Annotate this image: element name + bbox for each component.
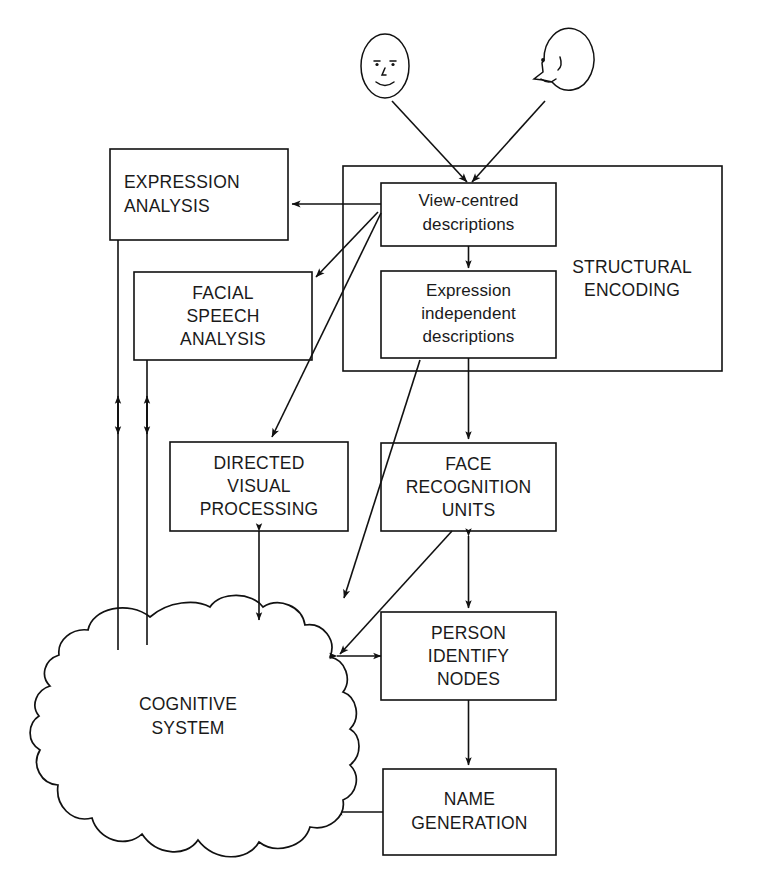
expression-analysis-label-line-2: ANALYSIS (124, 196, 210, 216)
expression-independent-label-line-3: descriptions (423, 327, 515, 346)
frontal-face-icon (361, 34, 409, 98)
face-recognition-model-diagram: STRUCTURAL ENCODING View-centred descrip… (0, 0, 758, 895)
link-view-centred-to-facial-speech (316, 212, 378, 277)
facial-speech-analysis-label-line-2: SPEECH (186, 306, 259, 326)
profile-face-icon (534, 28, 594, 90)
person-identify-nodes-label-line-1: PERSON (431, 623, 506, 643)
view-centred-descriptions-label-line-1: View-centred (418, 191, 518, 210)
face-recognition-units-label-line-2: RECOGNITION (406, 477, 532, 497)
facial-speech-analysis-label-line-1: FACIAL (192, 283, 254, 303)
face-recognition-units-label-line-3: UNITS (442, 500, 496, 520)
link-frontal-face-to-view-centred (392, 101, 467, 182)
expression-analysis-label-line-1: EXPRESSION (124, 172, 240, 192)
expression-independent-label-line-2: independent (421, 304, 516, 323)
directed-visual-processing-label-line-1: DIRECTED (213, 453, 304, 473)
person-identify-nodes-label-line-2: IDENTIFY (428, 646, 509, 666)
directed-visual-processing-label-line-2: VISUAL (227, 476, 291, 496)
facial-speech-analysis-label-line-3: ANALYSIS (180, 329, 266, 349)
cognitive-system-label-line-1: COGNITIVE (139, 694, 237, 714)
structural-encoding-label-line-2: ENCODING (584, 280, 680, 300)
name-generation-label-line-1: NAME (444, 789, 495, 809)
directed-visual-processing-label-line-3: PROCESSING (200, 499, 319, 519)
name-generation-label-line-2: GENERATION (411, 813, 527, 833)
link-profile-face-to-view-centred (472, 101, 545, 182)
face-recognition-units-label-line-1: FACE (445, 454, 492, 474)
diagram-canvas: STRUCTURAL ENCODING View-centred descrip… (0, 0, 758, 895)
person-identify-nodes-label-line-3: NODES (437, 669, 500, 689)
view-centred-descriptions-label-line-2: descriptions (423, 215, 515, 234)
expression-analysis-box[interactable] (110, 149, 288, 240)
structural-encoding-label-line-1: STRUCTURAL (572, 257, 692, 277)
cognitive-system-label-line-2: SYSTEM (151, 718, 224, 738)
expression-independent-label-line-1: Expression (426, 281, 511, 300)
